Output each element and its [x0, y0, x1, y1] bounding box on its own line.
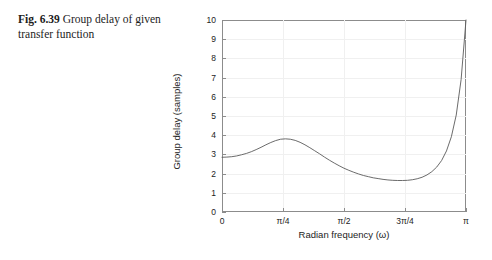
x-axis-tick-label: π/2 [338, 216, 351, 226]
x-axis-tick-label: π/4 [277, 216, 290, 226]
figure-root: Fig. 6.39 Group delay of given transfer … [0, 0, 492, 260]
y-axis-tick-label: 5 [211, 111, 216, 121]
figure-number: Fig. 6.39 [18, 13, 60, 25]
x-axis-title: Radian frequency (ω) [222, 229, 466, 240]
y-axis-tick-label: 0 [211, 207, 216, 217]
y-axis-tick-label: 9 [211, 34, 216, 44]
figure-caption: Fig. 6.39 Group delay of given transfer … [18, 12, 178, 42]
y-axis-tick-label: 8 [211, 53, 216, 63]
y-axis-tick [222, 212, 226, 213]
y-axis-tick-label: 2 [211, 169, 216, 179]
x-axis-tick-label: 3π/4 [396, 216, 414, 226]
y-axis-tick-label: 4 [211, 130, 216, 140]
y-axis-tick-label: 1 [211, 188, 216, 198]
x-axis-tick [466, 208, 467, 212]
y-axis-tick-label: 10 [207, 15, 216, 25]
x-axis-tick-label: 0 [220, 216, 225, 226]
plot-area: 0123456789100π/4π/23π/4π Radian frequenc… [222, 20, 466, 212]
y-axis-tick-label: 7 [211, 73, 216, 83]
data-series-group-delay [222, 20, 466, 181]
curve-layer [222, 20, 466, 212]
y-axis-tick-label: 3 [211, 149, 216, 159]
y-axis-title: Group delay (samples) [171, 26, 182, 218]
y-axis-tick-label: 6 [211, 92, 216, 102]
x-axis-tick-label: π [463, 216, 469, 226]
